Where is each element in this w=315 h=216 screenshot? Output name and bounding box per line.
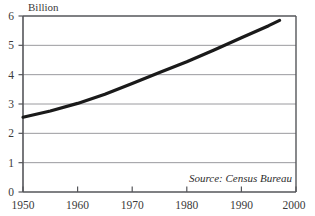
y-tick-label-2: 2 <box>8 127 14 139</box>
y-axis-unit-label: Billion <box>28 1 59 13</box>
y-tick-label-6: 6 <box>8 10 14 22</box>
source-annotation: Source: Census Bureau <box>189 172 293 184</box>
x-tick-label-1970: 1970 <box>121 199 144 211</box>
y-tick-label-0: 0 <box>8 186 14 198</box>
y-tick-label-1: 1 <box>8 157 14 169</box>
x-tick-label-2000: 2000 <box>283 199 306 211</box>
y-tick-label-5: 5 <box>8 39 14 51</box>
x-tick-label-1960: 1960 <box>66 199 89 211</box>
x-tick-label-1980: 1980 <box>175 199 198 211</box>
y-tick-label-4: 4 <box>8 69 14 81</box>
x-tick-label-1990: 1990 <box>230 199 253 211</box>
population-chart: Billion 0 1 2 3 4 5 6 1950 1960 1970 198… <box>0 0 315 216</box>
y-tick-label-3: 3 <box>8 98 14 110</box>
x-tick-label-1950: 1950 <box>12 199 35 211</box>
chart-canvas: Billion 0 1 2 3 4 5 6 1950 1960 1970 198… <box>0 0 315 216</box>
